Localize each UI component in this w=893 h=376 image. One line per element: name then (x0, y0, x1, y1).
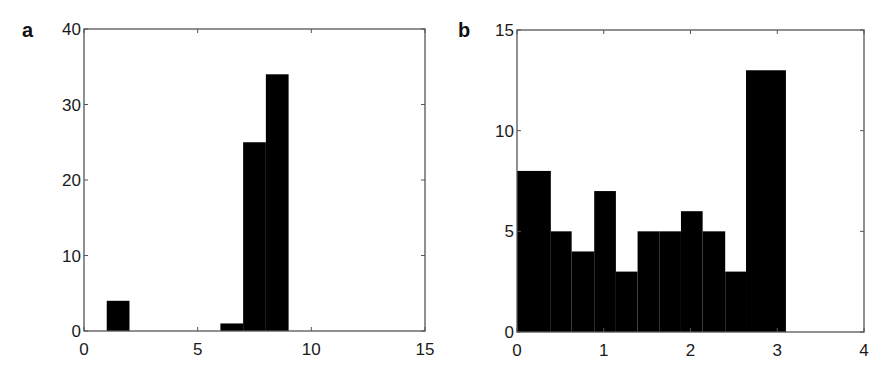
y-tick-label: 10 (495, 122, 514, 141)
y-tick-label: 0 (505, 323, 514, 342)
histogram-bar (551, 231, 572, 332)
histogram-bar (746, 70, 786, 332)
histogram-bar (107, 301, 130, 331)
y-tick-label: 40 (62, 20, 81, 39)
histogram-bar (703, 231, 726, 332)
y-tick-label: 10 (62, 247, 81, 266)
x-tick-label: 15 (416, 340, 435, 359)
x-tick-label: 2 (686, 341, 695, 360)
y-tick-label: 30 (62, 96, 81, 115)
histogram-bar (220, 323, 243, 331)
x-tick-label: 0 (512, 341, 521, 360)
histogram-bar (659, 231, 681, 332)
histogram-bar (681, 211, 703, 332)
histogram-bar (725, 272, 746, 332)
histogram-bar (517, 171, 551, 332)
x-tick-label: 1 (599, 341, 608, 360)
x-tick-label: 10 (302, 340, 321, 359)
x-tick-label: 4 (859, 341, 868, 360)
histogram-panel-a: 051015010203040 (62, 20, 434, 359)
histogram-bar (594, 191, 616, 332)
y-tick-label: 20 (62, 171, 81, 190)
x-tick-label: 5 (193, 340, 202, 359)
histogram-bar (243, 142, 266, 331)
y-tick-label: 5 (505, 222, 514, 241)
histogram-bar (266, 74, 289, 331)
figure-canvas: 051015010203040 01234051015 (0, 0, 893, 376)
y-tick-label: 0 (72, 322, 81, 341)
histogram-bar (638, 231, 660, 332)
x-tick-label: 3 (773, 341, 782, 360)
x-tick-label: 0 (79, 340, 88, 359)
histogram-panel-b: 01234051015 (495, 21, 869, 360)
histogram-bar (616, 272, 638, 332)
y-tick-label: 15 (495, 21, 514, 40)
histogram-bar (572, 251, 595, 332)
